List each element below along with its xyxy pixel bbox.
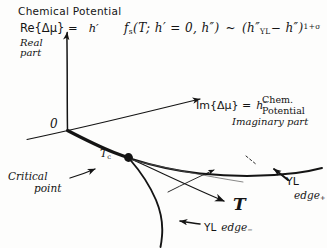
critical-temperature-sub: c xyxy=(107,153,111,161)
axis-caption-imaginary-part: Imaginary part xyxy=(232,117,308,128)
dashed-tick xyxy=(246,156,257,165)
axis-caption-chem-potential: Chem. Potential xyxy=(262,94,305,116)
figure-canvas: Chemical Potential Re{Δμ} =h′ Real part … xyxy=(0,0,327,248)
axis-label-re-equation: Re{Δμ} = xyxy=(20,21,78,35)
critical-point-caption-line1: Critical xyxy=(8,170,48,182)
axis-caption-chem-line2: Potential xyxy=(262,105,305,116)
formula-rhs-base: h″ xyxy=(247,21,260,35)
formula-args: (T; h′ = 0, h″) xyxy=(133,21,219,35)
formula-rhs-base-sub: YL xyxy=(260,27,271,36)
scaling-formula: fs(T; h′ = 0, h″)~(h″YL− h″)1+σ xyxy=(124,22,321,35)
axis-label-im: Im{Δμ} =h″ xyxy=(196,100,267,112)
yl-edge-plus-sign: + xyxy=(320,194,325,202)
yl-edge-minus-edge-word: edge xyxy=(216,221,247,233)
yl-edge-minus-text: YL xyxy=(204,221,216,233)
yl-edge-minus-arrow xyxy=(180,221,200,224)
axis-label-re-symbol: h′ xyxy=(78,21,99,35)
axis-label-t: T xyxy=(233,196,246,214)
critical-line xyxy=(68,131,128,158)
yl-edge-minus-sign: − xyxy=(247,226,252,234)
critical-temperature-label: Tc xyxy=(100,148,111,161)
yl-edge-minus-label: YLedge− xyxy=(204,222,253,234)
axis-re-vertical xyxy=(67,33,68,130)
yl-edge-plus-subtext: edge+ xyxy=(286,189,325,203)
axis-sublabel-real-part-line2: part xyxy=(20,47,41,58)
yl-edge-minus-curve xyxy=(130,160,162,248)
figure-title: Chemical Potential xyxy=(18,6,121,17)
yl-edge-plus-curve xyxy=(130,159,322,176)
formula-rhs-minus: − h″ xyxy=(271,21,299,35)
axis-sublabel-real-part: Real part xyxy=(20,38,43,58)
formula-rhs-exponent: 1+σ xyxy=(304,22,321,31)
yl-edge-plus-edge-word: edge xyxy=(294,189,320,201)
critical-point-caption-line2: point xyxy=(8,182,61,194)
yl-edge-plus-label: YL edge+ xyxy=(286,176,325,203)
critical-point-caption: Critical point xyxy=(8,170,61,194)
yl-edge-plus-text: YL xyxy=(286,175,299,188)
axis-caption-chem-line1: Chem. xyxy=(262,94,293,105)
formula-relation: ~ xyxy=(219,21,241,35)
axis-label-im-equation: Im{Δμ} = xyxy=(196,99,251,112)
critical-point-arrow xyxy=(70,169,95,178)
origin-label: 0 xyxy=(50,118,58,131)
axis-label-re: Re{Δμ} =h′ xyxy=(20,22,99,34)
